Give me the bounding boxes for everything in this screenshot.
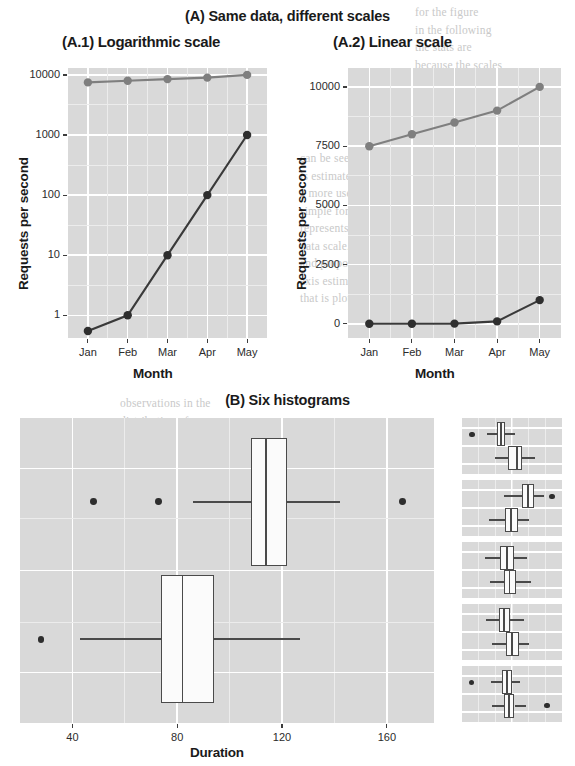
xtick-mark-Feb: [127, 339, 128, 343]
ytick-mark-10000: [63, 74, 67, 75]
boxplot-b-lower-median: [182, 575, 184, 703]
boxplot-facet4-lower-whisker-low: [492, 643, 506, 645]
boxplot-facet5-upper-whisker-low: [491, 681, 502, 683]
boxplot-b-upper-box: [251, 438, 288, 566]
boxplot-facet4-lower-median: [511, 632, 513, 656]
data-point-flat-Feb: [408, 130, 416, 138]
data-point-growth-Apr: [493, 317, 501, 325]
xtick-mark-40: [72, 724, 73, 728]
data-point-growth-Jan: [365, 320, 373, 328]
data-point-flat-Mar: [450, 118, 458, 126]
data-point-growth-May: [536, 296, 544, 304]
data-point-growth-Feb: [124, 311, 132, 319]
boxplot-facet2-upper-median: [527, 484, 529, 508]
boxplot-facet1-upper-whisker-low: [487, 433, 497, 435]
figure-title-a1: (A.1) Logarithmic scale: [62, 33, 220, 50]
xtick-label-Jan: Jan: [72, 346, 104, 358]
data-point-flat-Apr: [493, 106, 501, 114]
boxplot-facet5-lower-median: [508, 694, 510, 718]
xtick-mark-Apr: [497, 339, 498, 343]
axis-label-x-b-main: Duration: [190, 745, 244, 760]
ytick-label-100: 100: [26, 188, 60, 200]
gridline-h-0: [462, 613, 562, 615]
boxplot-facet4-upper-whisker-low: [486, 619, 499, 621]
xtick-label-40: 40: [56, 731, 88, 743]
xtick-mark-Feb: [411, 339, 412, 343]
boxplot-facet4-upper-whisker-high: [510, 619, 524, 621]
xtick-label-120: 120: [266, 731, 298, 743]
boxplot-facet2-upper-outlier-0: [549, 494, 554, 499]
ytick-mark-100: [63, 195, 67, 196]
boxplot-facet1-upper-outlier-0: [469, 432, 474, 437]
boxplot-facet2-upper-whisker-low: [504, 495, 522, 497]
boxplot-facet1-lower-box: [508, 446, 522, 470]
xtick-label-May: May: [524, 346, 556, 358]
boxplot-facet3-lower-whisker-low: [490, 581, 503, 583]
xtick-mark-160: [386, 724, 387, 728]
xtick-mark-Mar: [454, 339, 455, 343]
ytick-label-10: 10: [26, 248, 60, 260]
xtick-mark-Apr: [207, 339, 208, 343]
ytick-mark-10: [63, 255, 67, 256]
gridline-h-0: [462, 675, 562, 677]
xtick-mark-May: [247, 339, 248, 343]
boxplot-b-upper-outlier-0: [90, 498, 97, 505]
figure-title-a2: (A.2) Linear scale: [333, 33, 452, 50]
data-point-growth-Mar: [450, 319, 458, 327]
boxplot-facet2-lower-median: [510, 508, 512, 532]
ytick-label-5000: 5000: [306, 198, 340, 210]
boxplot-facet1-lower-whisker-high: [522, 457, 535, 459]
boxplot-b-lower-whisker-high: [214, 638, 300, 640]
data-point-growth-Jan: [84, 327, 92, 335]
boxplot-facet5-lower-whisker-low: [492, 705, 504, 707]
xtick-label-Mar: Mar: [439, 346, 471, 358]
xtick-label-160: 160: [371, 731, 403, 743]
ytick-label-1000: 1000: [26, 128, 60, 140]
boxplot-facet3-upper-whisker-high: [514, 557, 527, 559]
xtick-label-Jan: Jan: [353, 346, 385, 358]
boxplot-facet5-upper-whisker-high: [512, 681, 520, 683]
data-point-flat-Jan: [84, 78, 92, 86]
xtick-mark-80: [177, 724, 178, 728]
boxplot-facet5-upper-outlier-0: [469, 680, 474, 685]
boxplot-facet2-lower-whisker-low: [489, 519, 506, 521]
gridline-h-1: [20, 570, 434, 572]
boxplot-facet1-lower-median: [516, 446, 518, 470]
data-point-growth-Mar: [163, 251, 171, 259]
ytick-mark-7500: [343, 146, 347, 147]
xtick-label-Feb: Feb: [396, 346, 428, 358]
boxplot-facet5-upper-median: [506, 670, 508, 694]
boxplot-facet4-upper-median: [503, 608, 505, 632]
boxplot-facet2-upper-whisker-high: [534, 495, 544, 497]
boxplot-b-lower-outlier-0: [38, 636, 45, 643]
gridline-minor-h: [20, 518, 434, 519]
series-layer-a2: [348, 68, 561, 338]
gridline-h-0: [462, 489, 562, 491]
data-point-flat-Jan: [365, 142, 373, 150]
plot-area-b-main: [20, 418, 434, 723]
boxplot-facet3-lower-median: [509, 570, 511, 594]
gridline-h-0: [20, 468, 434, 470]
figure-title-a: (A) Same data, different scales: [0, 8, 575, 24]
series-line-flat: [369, 87, 539, 146]
boxplot-facet3-lower-whisker-high: [516, 581, 531, 583]
boxplot-facet1-lower-whisker-low: [495, 457, 508, 459]
series-line-growth: [88, 135, 247, 331]
boxplot-facet5-lower-outlier-0: [544, 703, 549, 708]
figure-title-b: (B) Six histograms: [0, 392, 575, 408]
boxplot-facet1-upper-median: [500, 422, 502, 446]
xtick-mark-Jan: [87, 339, 88, 343]
xtick-label-May: May: [231, 346, 263, 358]
series-layer-a1: [68, 68, 267, 338]
data-point-flat-May: [243, 71, 251, 79]
ytick-label-10000: 10000: [26, 68, 60, 80]
data-point-growth-Apr: [203, 191, 211, 199]
ytick-mark-5000: [343, 205, 347, 206]
ytick-label-1: 1: [26, 308, 60, 320]
xtick-mark-Jan: [369, 339, 370, 343]
axis-label-y-a2: Requests per second: [294, 157, 309, 290]
boxplot-b-upper-whisker-high: [287, 501, 339, 503]
data-point-flat-Mar: [163, 75, 171, 83]
boxplot-facet3-upper-median: [506, 546, 508, 570]
xtick-label-Apr: Apr: [191, 346, 223, 358]
